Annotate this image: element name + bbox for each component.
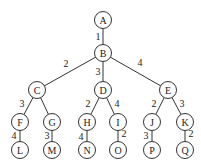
edge-weight-B-D: 3 xyxy=(96,66,101,77)
edge-B-C xyxy=(37,53,103,90)
node-I: I xyxy=(110,114,127,131)
edge-weight-B-E: 4 xyxy=(138,57,143,68)
edge-weight-D-I: 4 xyxy=(115,98,120,109)
node-Q: Q xyxy=(177,142,194,159)
edge-weight-G-M: 3 xyxy=(45,130,50,141)
edge-weight-E-K: 3 xyxy=(180,98,185,109)
node-label: Q xyxy=(181,145,189,156)
node-E: E xyxy=(160,82,177,99)
node-label: P xyxy=(149,145,155,156)
node-label: E xyxy=(165,85,171,96)
edge-weight-A-B: 1 xyxy=(96,31,101,42)
node-A: A xyxy=(95,12,112,29)
node-H: H xyxy=(79,114,96,131)
node-label: G xyxy=(48,117,55,128)
node-J: J xyxy=(144,114,161,131)
tree-diagram: 123432423434232 ABCDEFGHIJKLMNOPQ xyxy=(0,0,201,164)
edge-weight-F-L: 4 xyxy=(12,130,17,141)
node-label: M xyxy=(48,145,57,156)
node-P: P xyxy=(144,142,161,159)
edge-weight-H-N: 4 xyxy=(79,131,84,142)
node-O: O xyxy=(110,142,127,159)
node-label: H xyxy=(83,117,90,128)
edge-weight-D-H: 2 xyxy=(86,98,91,109)
node-C: C xyxy=(29,82,46,99)
node-K: K xyxy=(177,114,194,131)
edge-weight-E-J: 2 xyxy=(152,98,157,109)
node-label: K xyxy=(181,117,189,128)
node-label: J xyxy=(150,117,154,128)
edge-weight-J-P: 3 xyxy=(144,130,149,141)
node-label: I xyxy=(116,117,119,128)
node-N: N xyxy=(79,142,96,159)
node-label: A xyxy=(99,15,107,26)
node-F: F xyxy=(12,114,29,131)
edge-B-E xyxy=(103,53,168,90)
node-G: G xyxy=(44,114,61,131)
node-label: D xyxy=(99,85,106,96)
node-M: M xyxy=(44,142,61,159)
node-label: B xyxy=(100,48,107,59)
node-D: D xyxy=(95,82,112,99)
edge-weight-B-C: 2 xyxy=(64,58,69,69)
node-label: N xyxy=(83,145,90,156)
node-label: L xyxy=(17,145,23,156)
edge-weight-C-F: 3 xyxy=(20,98,25,109)
node-L: L xyxy=(12,142,29,159)
node-label: O xyxy=(114,145,121,156)
node-label: F xyxy=(17,117,23,128)
node-B: B xyxy=(95,45,112,62)
node-label: C xyxy=(34,85,41,96)
